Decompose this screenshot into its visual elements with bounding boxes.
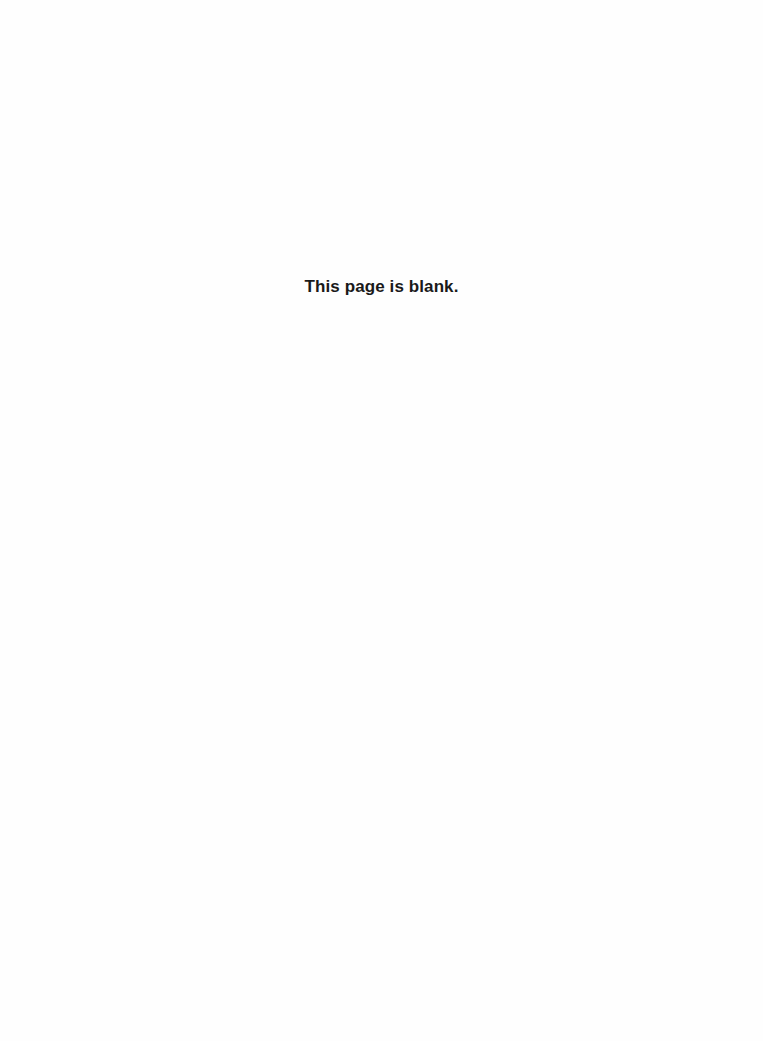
blank-page-notice: This page is blank. (0, 276, 763, 298)
document-page: This page is blank. (0, 0, 763, 1041)
